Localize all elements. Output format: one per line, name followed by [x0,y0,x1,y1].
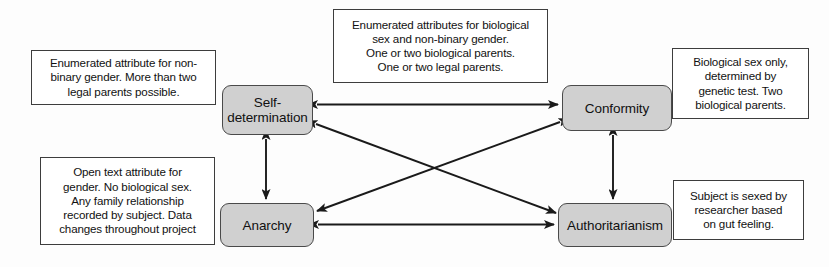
note-top-center: Enumerated attributes for biological sex… [333,9,548,83]
node-conformity-label: Conformity [581,101,653,116]
node-anarchy-label: Anarchy [239,218,296,233]
note-authoritarianism-text: Subject is sexed by researcher based on … [685,189,792,232]
diagram-canvas: Self- determination Conformity Anarchy A… [0,0,829,267]
note-authoritarianism: Subject is sexed by researcher based on … [673,180,804,240]
edge-self-determination-authoritarianism [316,124,556,213]
note-anarchy: Open text attribute for gender. No biolo… [40,157,215,245]
note-top-center-text: Enumerated attributes for biological sex… [347,18,534,75]
note-conformity: Biological sex only, determined by genet… [672,48,809,119]
note-anarchy-text: Open text attribute for gender. No biolo… [54,165,201,236]
note-conformity-text: Biological sex only, determined by genet… [688,55,793,112]
node-conformity[interactable]: Conformity [562,85,672,131]
node-self-determination-label: Self- determination [223,95,312,125]
node-anarchy[interactable]: Anarchy [220,203,314,247]
note-self-determination: Enumerated attribute for non- binary gen… [31,50,216,105]
edge-conformity-anarchy [317,122,560,211]
note-self-determination-text: Enumerated attribute for non- binary gen… [45,56,202,99]
node-authoritarianism[interactable]: Authoritarianism [558,203,672,247]
node-self-determination[interactable]: Self- determination [222,85,313,135]
node-authoritarianism-label: Authoritarianism [563,218,667,233]
